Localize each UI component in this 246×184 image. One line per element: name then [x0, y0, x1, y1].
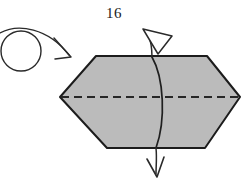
origami-step-figure: 16: [0, 0, 246, 184]
hexagon-paper: [60, 56, 240, 148]
rotate-arrowhead-icon: [54, 38, 71, 59]
origami-diagram-canvas: [0, 0, 246, 184]
unfold-hollow-arrowhead-icon: [143, 29, 172, 54]
rotate-circle-icon: [1, 31, 41, 71]
rotate-arrow-icon: [0, 28, 69, 55]
